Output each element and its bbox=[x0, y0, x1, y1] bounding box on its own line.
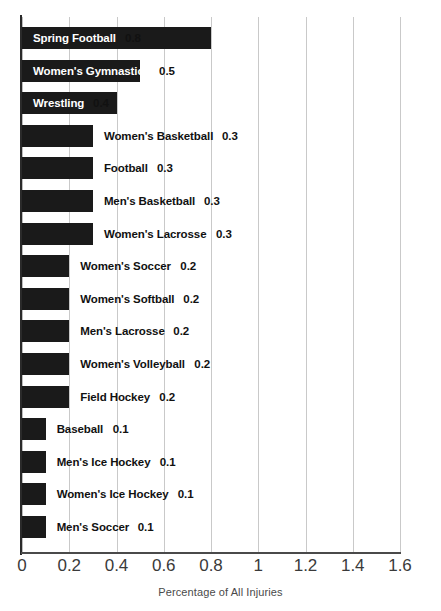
bar[interactable] bbox=[22, 288, 69, 310]
x-tick-label: 1.2 bbox=[294, 556, 318, 576]
bar[interactable] bbox=[22, 255, 69, 277]
bar-category-label: Men's Lacrosse bbox=[80, 320, 164, 342]
bar[interactable] bbox=[22, 386, 69, 408]
bar[interactable] bbox=[22, 483, 46, 505]
bar-row[interactable]: Men's Soccer0.1 bbox=[22, 516, 400, 538]
bar-value-label: 0.4 bbox=[93, 92, 109, 114]
bar-value-label: 0.2 bbox=[180, 255, 196, 277]
bar-category-label: Women's Basketball bbox=[104, 125, 213, 147]
bar-value-label: 0.2 bbox=[173, 320, 189, 342]
bar-row[interactable]: Men's Ice Hockey0.1 bbox=[22, 451, 400, 473]
bar-value-label: 0.1 bbox=[160, 451, 176, 473]
bar-row[interactable]: Women's Lacrosse0.3 bbox=[22, 223, 400, 245]
x-tick-label: 0.8 bbox=[199, 556, 223, 576]
bar-value-label: 0.5 bbox=[159, 60, 175, 82]
bar-row[interactable]: Women's Volleyball0.2 bbox=[22, 353, 400, 375]
bar-row[interactable]: Wrestling0.4 bbox=[22, 92, 400, 114]
bar-row[interactable]: Women's Soccer0.2 bbox=[22, 255, 400, 277]
x-axis-label: Percentage of All Injuries bbox=[0, 586, 441, 598]
bar-series: Spring Football0.8Women's Gymnastics0.5W… bbox=[22, 17, 400, 553]
x-tick-label: 1.6 bbox=[388, 556, 412, 576]
y-axis-line bbox=[20, 15, 22, 555]
bar-value-label: 0.3 bbox=[157, 157, 173, 179]
bar-row[interactable]: Women's Softball0.2 bbox=[22, 288, 400, 310]
bar-category-label: Field Hockey bbox=[80, 386, 150, 408]
bar-row[interactable]: Women's Gymnastics0.5 bbox=[22, 60, 400, 82]
x-tick-label: 0.2 bbox=[57, 556, 81, 576]
bar-category-label: Women's Ice Hockey bbox=[57, 483, 169, 505]
bar-category-label: Women's Gymnastics bbox=[33, 60, 150, 82]
x-axis-line bbox=[21, 552, 401, 554]
bar[interactable] bbox=[22, 223, 93, 245]
bar-value-label: 0.1 bbox=[178, 483, 194, 505]
bar-row[interactable]: Women's Ice Hockey0.1 bbox=[22, 483, 400, 505]
bar-row[interactable]: Field Hockey0.2 bbox=[22, 386, 400, 408]
bar-value-label: 0.8 bbox=[125, 27, 141, 49]
x-tick-label: 0 bbox=[17, 556, 26, 576]
x-axis-ticks: 00.20.40.60.811.21.41.6 bbox=[0, 556, 441, 582]
plot-area: Spring Football0.8Women's Gymnastics0.5W… bbox=[22, 17, 400, 553]
bar-category-label: Men's Ice Hockey bbox=[57, 451, 151, 473]
bar[interactable] bbox=[22, 320, 69, 342]
bar-category-label: Women's Lacrosse bbox=[104, 223, 207, 245]
bar-value-label: 0.1 bbox=[138, 516, 154, 538]
bar-value-label: 0.2 bbox=[194, 353, 210, 375]
bar-value-label: 0.3 bbox=[222, 125, 238, 147]
bar[interactable] bbox=[22, 125, 93, 147]
bar[interactable] bbox=[22, 190, 93, 212]
bar-row[interactable]: Baseball0.1 bbox=[22, 418, 400, 440]
bar[interactable] bbox=[22, 353, 69, 375]
bar[interactable] bbox=[22, 451, 46, 473]
bar-row[interactable]: Men's Basketball0.3 bbox=[22, 190, 400, 212]
bar[interactable] bbox=[22, 157, 93, 179]
bar-value-label: 0.2 bbox=[159, 386, 175, 408]
bar-row[interactable]: Football0.3 bbox=[22, 157, 400, 179]
chart-title bbox=[0, 0, 441, 6]
bar-row[interactable]: Spring Football0.8 bbox=[22, 27, 400, 49]
bar-category-label: Men's Soccer bbox=[57, 516, 129, 538]
bar-row[interactable]: Women's Basketball0.3 bbox=[22, 125, 400, 147]
bar-category-label: Women's Soccer bbox=[80, 255, 171, 277]
x-tick-label: 1 bbox=[254, 556, 263, 576]
x-tick-label: 0.4 bbox=[105, 556, 129, 576]
bar-category-label: Women's Softball bbox=[80, 288, 174, 310]
bar-chart: Spring Football0.8Women's Gymnastics0.5W… bbox=[0, 0, 441, 611]
x-tick-label: 0.6 bbox=[152, 556, 176, 576]
bar-category-label: Wrestling bbox=[33, 92, 84, 114]
bar-category-label: Men's Basketball bbox=[104, 190, 195, 212]
bar-value-label: 0.3 bbox=[216, 223, 232, 245]
bar-value-label: 0.3 bbox=[204, 190, 220, 212]
bar[interactable] bbox=[22, 418, 46, 440]
gridline-1p6 bbox=[400, 17, 401, 553]
bar[interactable] bbox=[22, 516, 46, 538]
bar-category-label: Spring Football bbox=[33, 27, 116, 49]
bar-category-label: Baseball bbox=[57, 418, 104, 440]
bar-row[interactable]: Men's Lacrosse0.2 bbox=[22, 320, 400, 342]
bar-category-label: Football bbox=[104, 157, 148, 179]
bar-value-label: 0.2 bbox=[183, 288, 199, 310]
bar-category-label: Women's Volleyball bbox=[80, 353, 185, 375]
x-tick-label: 1.4 bbox=[341, 556, 365, 576]
bar-value-label: 0.1 bbox=[113, 418, 129, 440]
